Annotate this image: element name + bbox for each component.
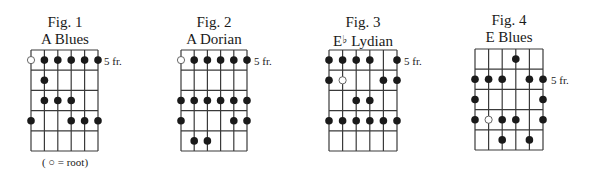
scale-note-dot-icon xyxy=(498,136,506,144)
scale-note-dot-icon xyxy=(512,55,520,63)
scale-note-dot-icon xyxy=(526,136,534,144)
scale-note-dot-icon xyxy=(539,116,547,124)
scale-note-dot-icon xyxy=(471,96,479,104)
scale-note-dot-icon xyxy=(539,96,547,104)
root-note-open-circle-icon xyxy=(485,116,492,123)
scale-note-dot-icon xyxy=(471,76,479,84)
scale-note-dot-icon xyxy=(498,116,506,124)
fretboard-diagram-e-blues xyxy=(0,0,601,173)
figure-4-fret-position-label: 5 fr. xyxy=(551,74,569,86)
scale-note-dot-icon xyxy=(485,76,493,84)
figure-4: Fig. 4 E Blues 5 fr. xyxy=(0,0,601,173)
scale-note-dot-icon xyxy=(498,76,506,84)
scale-note-dot-icon xyxy=(512,116,520,124)
scale-note-dot-icon xyxy=(471,116,479,124)
scale-note-dot-icon xyxy=(526,76,534,84)
scale-note-dot-icon xyxy=(539,76,547,84)
